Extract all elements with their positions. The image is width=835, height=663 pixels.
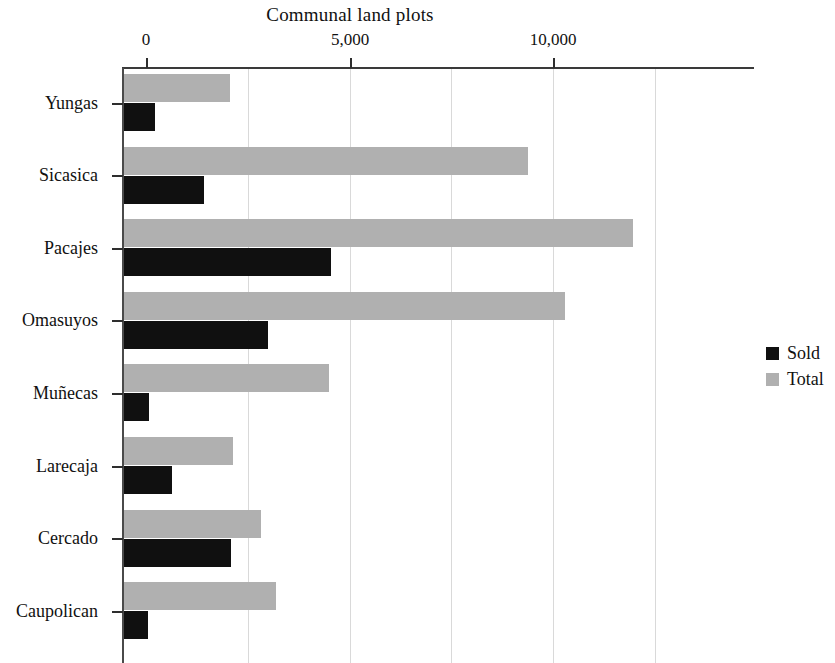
y-tick — [112, 538, 123, 540]
legend-item-total: Total — [766, 366, 835, 392]
x-tick-label: 0 — [142, 30, 151, 50]
y-tick — [112, 611, 123, 613]
y-tick-label: Sicasica — [39, 165, 98, 186]
bar-sold — [124, 103, 155, 131]
y-tick — [112, 103, 123, 105]
y-tick-label: Caupolican — [16, 601, 98, 622]
x-tick — [146, 58, 148, 68]
bar-sold — [124, 321, 268, 349]
bar-total — [124, 219, 633, 247]
legend-item-sold: Sold — [766, 340, 835, 366]
y-tick-label: Yungas — [45, 93, 98, 114]
legend-swatch-total — [766, 373, 779, 386]
bar-sold — [124, 248, 331, 276]
y-tick-label: Pacajes — [44, 238, 98, 259]
gridline — [655, 69, 656, 663]
y-tick — [112, 175, 123, 177]
chart-title: Communal land plots — [0, 4, 700, 26]
x-tick-label: 10,000 — [530, 30, 577, 50]
bar-sold — [124, 393, 149, 421]
legend-swatch-sold — [766, 347, 779, 360]
bar-total — [124, 364, 329, 392]
bar-sold — [124, 176, 204, 204]
communal-land-plots-chart: Communal land plots 05,00010,000 YungasS… — [0, 0, 835, 663]
legend-label-sold: Sold — [787, 343, 820, 364]
y-tick-label: Omasuyos — [22, 310, 98, 331]
bar-sold — [124, 539, 231, 567]
bar-sold — [124, 611, 148, 639]
bar-total — [124, 582, 276, 610]
x-tick-label: 5,000 — [331, 30, 369, 50]
y-tick — [112, 320, 123, 322]
y-tick — [112, 466, 123, 468]
bar-total — [124, 510, 261, 538]
gridline — [553, 69, 554, 663]
y-tick-label: Muñecas — [33, 383, 98, 404]
y-tick-label: Cercado — [38, 528, 98, 549]
bar-total — [124, 74, 230, 102]
y-tick-label: Larecaja — [36, 456, 98, 477]
y-tick — [112, 248, 123, 250]
x-tick — [553, 58, 555, 68]
x-tick — [350, 58, 352, 68]
y-tick — [112, 393, 123, 395]
chart-legend: Sold Total — [766, 340, 835, 392]
bar-total — [124, 147, 528, 175]
legend-label-total: Total — [787, 369, 824, 390]
bar-total — [124, 437, 233, 465]
x-axis-line — [122, 67, 754, 69]
bar-sold — [124, 466, 172, 494]
bar-total — [124, 292, 565, 320]
